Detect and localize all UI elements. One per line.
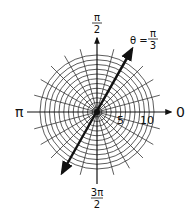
grid-spoke	[80, 49, 97, 112]
label-radius-10: 10	[140, 114, 154, 127]
label-line-equation: θ = π 3	[130, 28, 158, 51]
svg-text:2: 2	[94, 24, 100, 35]
grid-spoke	[97, 112, 114, 175]
svg-text:π: π	[150, 28, 156, 39]
label-radius-5: 5	[117, 114, 124, 127]
grid-spoke	[34, 95, 97, 112]
svg-text:2: 2	[94, 199, 100, 210]
label-angle-pi: π	[15, 104, 24, 120]
grid-spoke	[97, 49, 114, 112]
svg-text:θ =: θ =	[130, 35, 148, 46]
origin-dot	[94, 109, 100, 115]
svg-text:π: π	[94, 12, 100, 23]
svg-text:3π: 3π	[91, 187, 103, 198]
label-angle-half-pi: π 2	[92, 12, 102, 35]
polar-grid-figure: 0 π 5 10 π 2 3π 2 θ = π 3	[0, 0, 194, 222]
grid-spoke	[97, 95, 160, 112]
label-angle-three-half-pi: 3π 2	[91, 187, 103, 210]
label-angle-zero: 0	[176, 104, 185, 120]
grid-spoke	[80, 112, 97, 175]
svg-text:3: 3	[150, 40, 156, 51]
